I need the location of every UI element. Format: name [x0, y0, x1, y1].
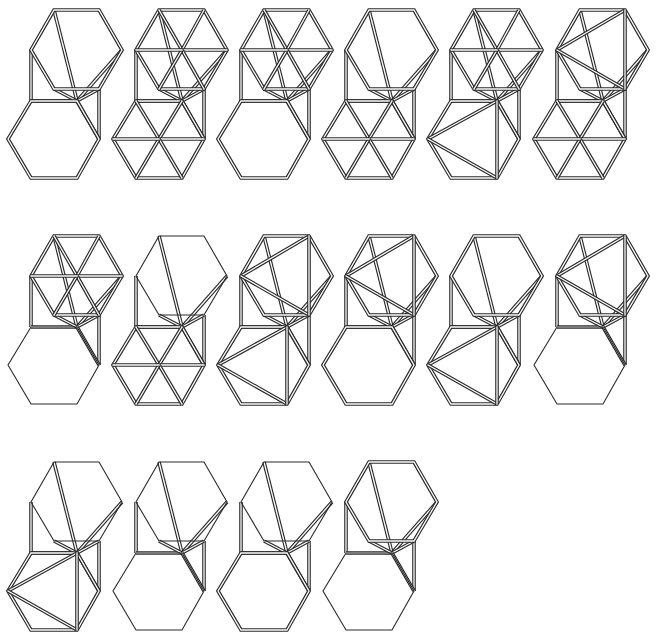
hex-figure-2 [113, 10, 227, 178]
hex-figure-10 [323, 236, 437, 404]
hex-figure-8 [113, 236, 227, 404]
hex-figure-6 [534, 10, 648, 178]
hex-figure-15 [218, 462, 332, 630]
hex-figure-13 [8, 462, 122, 630]
hex-figure-16 [323, 462, 437, 630]
hex-figure-11 [428, 236, 542, 404]
hex-figure-4 [323, 10, 437, 178]
hex-figure-3 [218, 10, 332, 178]
hexagon-figure-grid [0, 0, 659, 637]
top-hexagon [31, 462, 122, 541]
top-hexagon [346, 10, 437, 89]
bottom-hexagon [8, 101, 99, 178]
top-hexagon [451, 236, 542, 315]
top-hexagon [31, 10, 122, 89]
bottom-hexagon [323, 327, 414, 404]
top-hexagon [136, 236, 227, 315]
hex-figure-5 [428, 10, 542, 178]
hex-figure-14 [113, 462, 227, 630]
bottom-hexagon [218, 553, 309, 630]
hex-figure-9 [218, 236, 332, 404]
top-hexagon [136, 462, 227, 541]
hex-figure-7 [8, 236, 122, 404]
top-hexagon [346, 462, 437, 541]
bottom-hexagon [218, 101, 309, 178]
hex-figure-12 [534, 236, 648, 404]
top-hexagon [241, 462, 332, 541]
hex-figure-1 [8, 10, 122, 178]
